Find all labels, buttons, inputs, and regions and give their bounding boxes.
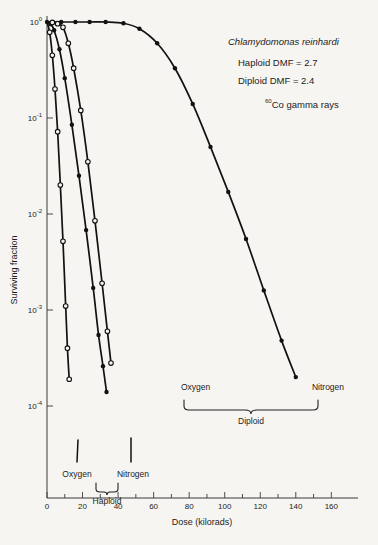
oxygen-haploid-leader <box>77 440 78 462</box>
survival-curve-chart: 020406080100120140160 10010-110-210-310-… <box>0 0 378 545</box>
data-point <box>121 21 125 25</box>
data-point <box>61 25 66 30</box>
data-point <box>65 346 70 351</box>
x-tick-label: 20 <box>78 502 87 511</box>
data-point <box>63 304 68 309</box>
y-axis-title: Surviving fraction <box>9 235 19 304</box>
data-point <box>59 20 63 24</box>
data-point <box>47 30 52 35</box>
data-point <box>57 47 61 51</box>
haploid-group-label: Haploid <box>93 496 122 506</box>
data-point <box>87 20 91 24</box>
x-tick-label: 80 <box>185 502 194 511</box>
curve-oxygen-diploid <box>47 22 111 363</box>
data-point <box>77 174 81 178</box>
x-tick-label: 100 <box>218 502 232 511</box>
diploid-group-label: Diploid <box>238 416 264 426</box>
y-tick-label: 10-1 <box>28 112 43 123</box>
radiation-source-label: 60Co gamma rays <box>265 98 339 110</box>
x-axis-title: Dose (kilorads) <box>172 517 233 527</box>
data-point <box>86 159 91 164</box>
nitrogen-diploid-label: Nitrogen <box>312 382 344 392</box>
data-point <box>226 190 230 194</box>
data-point <box>244 237 248 241</box>
data-point <box>58 183 63 188</box>
data-point <box>104 390 108 394</box>
curve-oxygen-haploid <box>47 22 69 379</box>
oxygen-diploid-label: Oxygen <box>181 382 211 392</box>
data-point <box>93 218 98 223</box>
data-point <box>73 20 77 24</box>
annotation-block: Chlamydomonas reinhardi Haploid DMF = 2.… <box>228 36 340 110</box>
data-point <box>91 286 95 290</box>
isotope-text: Co gamma rays <box>272 99 339 110</box>
y-tick-label: 10-3 <box>28 304 43 315</box>
diploid-brace <box>184 400 318 414</box>
data-point <box>109 361 114 366</box>
data-point <box>191 102 195 106</box>
axes <box>47 16 358 498</box>
x-tick-label: 60 <box>149 502 158 511</box>
haploid-brace-left <box>96 483 118 495</box>
data-point <box>50 20 55 25</box>
diploid-label-group: Oxygen Nitrogen Diploid <box>181 382 344 426</box>
y-tick-label: 10-4 <box>28 400 43 411</box>
data-point <box>61 239 66 244</box>
y-axis-ticks: 10010-110-210-310-4 <box>28 16 53 411</box>
data-point <box>155 41 159 45</box>
diploid-dmf-label: Diploid DMF = 2.4 <box>238 75 314 86</box>
x-tick-label: 120 <box>254 502 268 511</box>
data-point <box>53 87 58 92</box>
data-point <box>137 27 141 31</box>
data-point <box>52 28 56 32</box>
x-axis-ticks: 020406080100120140160 <box>45 492 339 511</box>
data-point <box>96 333 100 337</box>
data-point <box>103 20 107 24</box>
data-point <box>173 66 177 70</box>
x-tick-label: 0 <box>45 502 50 511</box>
data-point <box>50 53 55 58</box>
x-tick-label: 160 <box>325 502 339 511</box>
data-point <box>70 123 74 127</box>
y-tick-label: 100 <box>30 16 43 27</box>
haploid-dmf-label: Haploid DMF = 2.7 <box>238 57 317 68</box>
data-point <box>101 364 105 368</box>
data-point <box>45 20 49 24</box>
y-tick-label: 10-2 <box>28 208 43 219</box>
data-point <box>208 145 212 149</box>
figure-page: 020406080100120140160 10010-110-210-310-… <box>0 0 378 545</box>
species-name: Chlamydomonas reinhardi <box>228 36 340 47</box>
data-point <box>63 76 67 80</box>
oxygen-haploid-label: Oxygen <box>62 469 92 479</box>
data-point <box>78 108 83 113</box>
nitrogen-haploid-label: Nitrogen <box>117 469 149 479</box>
data-point <box>100 281 105 286</box>
data-point <box>67 377 72 382</box>
data-point <box>66 41 71 46</box>
x-tick-label: 140 <box>289 502 303 511</box>
data-point <box>71 66 76 71</box>
data-point <box>55 129 60 134</box>
data-point <box>279 338 283 342</box>
data-point <box>294 375 298 379</box>
data-point <box>105 329 110 334</box>
data-point <box>84 228 88 232</box>
data-point <box>262 288 266 292</box>
